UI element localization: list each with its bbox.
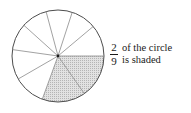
caption-text: of the circle is shaded (122, 41, 172, 66)
spoke-320deg (58, 26, 93, 56)
spoke-255deg (46, 12, 58, 56)
center-dot (57, 55, 60, 58)
fraction-denominator: 9 (110, 56, 118, 67)
shaded-sectors (42, 56, 104, 102)
fraction-numerator: 2 (110, 42, 118, 53)
fraction-label-block: 2 9 of the circle is shaded (110, 41, 172, 67)
caption-line-1: of the circle (122, 42, 172, 54)
spoke-188deg (12, 50, 58, 56)
spoke-288deg (58, 12, 72, 56)
spoke-222deg (24, 25, 58, 56)
caption-line-2: is shaded (122, 54, 172, 66)
fraction-2-9: 2 9 (110, 41, 118, 67)
